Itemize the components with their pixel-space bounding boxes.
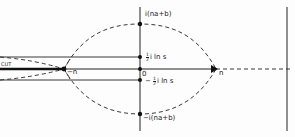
point-bottom xyxy=(138,112,142,116)
contour-diagram: i(na+b) 12i ln s 0 − 12i ln s −i(na+b) −… xyxy=(0,0,295,137)
dashed-curve-lower-left xyxy=(0,69,64,80)
point-neg-half-ln-s xyxy=(138,78,142,82)
fraction-half: 12 xyxy=(146,53,149,62)
point-half-ln-s xyxy=(138,55,142,59)
label-neg-half-ln-s: − 12i ln s xyxy=(145,77,173,86)
label-neg-n: −n xyxy=(67,69,77,76)
label-cut: CUT xyxy=(1,62,11,67)
fraction-neg-half: 12 xyxy=(153,77,156,86)
label-pos-n: n xyxy=(219,70,223,77)
point-neg-n xyxy=(62,67,67,72)
label-half-ln-s: 12i ln s xyxy=(146,53,166,62)
label-top: i(na+b) xyxy=(145,11,171,18)
point-top xyxy=(138,22,142,26)
label-bottom: −i(na+b) xyxy=(143,115,175,122)
